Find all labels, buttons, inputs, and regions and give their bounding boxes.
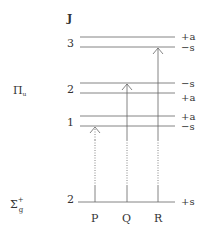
- j-label-2-lower: 2: [67, 193, 74, 206]
- branch-label-q: Q: [122, 212, 131, 225]
- parity-label: −s: [181, 42, 195, 53]
- transition-r: [153, 48, 163, 202]
- parity-label: +a: [181, 31, 195, 42]
- j-label-1: 1: [67, 116, 74, 129]
- j-label-3: 3: [67, 37, 74, 50]
- branch-label-r: R: [154, 212, 163, 225]
- parity-label: +a: [181, 92, 195, 103]
- energy-level-diagram: J Πu Σ+g 3 2 1 2 +a −s −s +a +a −s +s: [0, 0, 203, 235]
- parity-label: +s: [181, 196, 195, 207]
- transition-p: [90, 127, 100, 202]
- upper-state-label: Πu: [13, 84, 27, 97]
- parity-label: −s: [181, 78, 195, 89]
- j-axis-label: J: [66, 12, 72, 25]
- j-label-2-upper: 2: [67, 83, 74, 96]
- transition-q: [122, 84, 132, 202]
- lower-state-label: Σ+g: [10, 196, 24, 214]
- parity-label: −s: [181, 121, 195, 132]
- branch-label-p: P: [91, 212, 99, 225]
